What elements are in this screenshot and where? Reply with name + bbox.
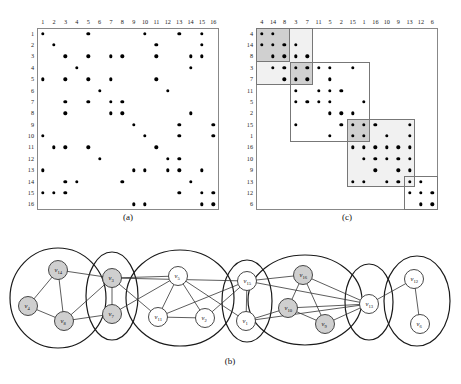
matrix-col-label: 1 [41, 19, 44, 25]
matrix-row-label: 4 [31, 65, 34, 71]
matrix-col-label: 7 [109, 19, 112, 25]
matrix-col-label: 9 [132, 19, 135, 25]
matrix-row-label: 11 [247, 87, 253, 93]
graph-node-v1[interactable]: v1 [237, 312, 256, 331]
matrix-row-label: 6 [31, 87, 34, 93]
matrix-row-label: 9 [250, 167, 253, 173]
matrix-row-label: 6 [250, 201, 253, 207]
graph-node-v13[interactable]: v13 [360, 295, 379, 314]
matrix-row-label: 3 [250, 65, 253, 71]
matrix-row-label: 2 [250, 110, 253, 116]
matrix-col-label: 9 [397, 19, 400, 25]
matrix-a-container: 1234567891011121314151612345678910111213… [0, 0, 231, 220]
matrix-c-container: 4148371152151161091312641483711521511610… [230, 0, 461, 220]
graph-node-v8[interactable]: v8 [55, 312, 74, 331]
graph-node-v6[interactable]: v6 [411, 315, 430, 334]
matrix-row-label: 8 [31, 110, 34, 116]
matrix-row-label: 14 [247, 42, 253, 48]
matrix-row-label: 13 [28, 167, 34, 173]
matrix-row-label: 12 [28, 156, 34, 162]
matrix-row-label: 14 [28, 178, 34, 184]
matrix-row-label: 16 [247, 144, 253, 150]
cluster-2-core [290, 62, 313, 85]
matrix-row-label: 10 [28, 133, 34, 139]
matrix-col-label: 11 [153, 19, 159, 25]
matrix-col-label: 10 [384, 19, 390, 25]
matrix-col-label: 15 [350, 19, 356, 25]
graph-edge [112, 276, 178, 314]
matrix-col-label: 7 [306, 19, 309, 25]
matrix-col-label: 2 [340, 19, 343, 25]
matrix-row-label: 7 [250, 76, 253, 82]
graph-b-container: v4v14v8v3v7v5v11v2v15v1v16v10v9v13v12v6 [0, 236, 461, 354]
matrix-row-label: 15 [247, 122, 253, 128]
graph-node-v15[interactable]: v15 [238, 272, 257, 291]
matrix-col-label: 5 [328, 19, 331, 25]
matrix-col-label: 12 [165, 19, 171, 25]
matrix-col-label: 10 [142, 19, 148, 25]
matrix-col-label: 13 [176, 19, 182, 25]
matrix-col-label: 6 [431, 19, 434, 25]
graph-edge [303, 275, 369, 304]
matrix-col-label: 6 [98, 19, 101, 25]
graph-edge [247, 281, 369, 304]
matrix-row-label: 3 [31, 53, 34, 59]
graph-node-v3[interactable]: v3 [103, 269, 122, 288]
matrix-col-label: 13 [406, 19, 412, 25]
matrix-row-label: 16 [28, 201, 34, 207]
matrix-row-label: 5 [31, 76, 34, 82]
caption-b: (b) [225, 356, 236, 366]
matrix-col-label: 12 [418, 19, 424, 25]
cluster-ellipse-3 [126, 250, 234, 346]
matrix-col-label: 5 [87, 19, 90, 25]
graph-node-v4[interactable]: v4 [19, 297, 38, 316]
matrix-row-label: 12 [247, 190, 253, 196]
matrix-col-label: 8 [121, 19, 124, 25]
graph-node-v16[interactable]: v16 [294, 266, 313, 285]
matrix-row-label: 1 [31, 31, 34, 37]
graph-node-v11[interactable]: v11 [149, 308, 168, 327]
matrix-row-label: 11 [28, 144, 34, 150]
matrix-col-label: 15 [199, 19, 205, 25]
graph-b-svg: v4v14v8v3v7v5v11v2v15v1v16v10v9v13v12v6 [0, 236, 461, 354]
graph-node-v7[interactable]: v7 [103, 305, 122, 324]
matrix-col-label: 3 [64, 19, 67, 25]
matrix-col-label: 2 [53, 19, 56, 25]
graph-node-v2[interactable]: v2 [196, 309, 215, 328]
matrix-col-label: 16 [372, 19, 378, 25]
matrix-row-label: 2 [31, 42, 34, 48]
caption-a: (a) [123, 212, 133, 222]
matrix-row-label: 5 [250, 99, 253, 105]
matrix-col-label: 4 [75, 19, 78, 25]
matrix-col-label: 1 [363, 19, 366, 25]
matrix-col-label: 8 [283, 19, 286, 25]
matrix-col-label: 14 [270, 19, 276, 25]
matrix-col-label: 4 [260, 19, 263, 25]
matrix-row-label: 10 [247, 156, 253, 162]
matrix-row-label: 9 [31, 122, 34, 128]
caption-c: (c) [342, 212, 352, 222]
matrix-col-label: 14 [187, 19, 193, 25]
matrix-row-label: 1 [250, 133, 253, 139]
graph-node-v12[interactable]: v12 [405, 270, 424, 289]
matrix-row-label: 4 [250, 31, 253, 37]
matrix-row-label: 8 [250, 53, 253, 59]
cluster-3-core [347, 119, 370, 142]
matrix-col-label: 3 [294, 19, 297, 25]
graph-node-v14[interactable]: v14 [49, 261, 68, 280]
graph-node-v9[interactable]: v9 [316, 315, 335, 334]
matrix-row-label: 15 [28, 190, 34, 196]
matrix-col-label: 16 [210, 19, 216, 25]
matrix-col-label: 11 [316, 19, 322, 25]
graph-node-v10[interactable]: v10 [279, 299, 298, 318]
matrix-row-label: 7 [31, 99, 34, 105]
graph-node-v5[interactable]: v5 [169, 267, 188, 286]
matrix-row-label: 13 [247, 178, 253, 184]
